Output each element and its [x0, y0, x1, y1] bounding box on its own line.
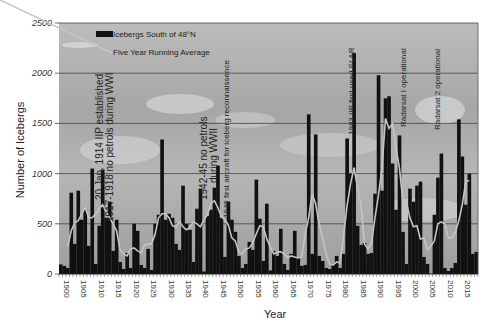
- bar: [199, 189, 203, 274]
- x-tick-label: 2015: [463, 280, 472, 298]
- x-axis-title: Year: [264, 308, 287, 320]
- x-tick-label: 1900: [62, 280, 71, 298]
- annotation-text: Radarsat 2 operational: [433, 49, 442, 130]
- bar: [234, 232, 238, 274]
- bar: [422, 257, 426, 274]
- bar: [366, 254, 370, 274]
- bar: [433, 215, 437, 274]
- bar: [363, 243, 367, 274]
- bar: [87, 246, 91, 274]
- bar: [80, 220, 84, 274]
- bar: [206, 216, 210, 274]
- bar: [359, 245, 363, 274]
- x-tick-label: 1985: [359, 280, 368, 298]
- bar: [394, 210, 398, 274]
- x-tick-label: 1970: [306, 280, 315, 298]
- bar: [380, 191, 384, 274]
- bar: [412, 202, 416, 274]
- x-tick-label: 1915: [114, 280, 123, 298]
- bar: [391, 164, 395, 274]
- bar: [440, 154, 444, 274]
- bar: [377, 75, 381, 274]
- x-tick-label: 1925: [149, 280, 158, 298]
- x-tick-label: 1905: [79, 280, 88, 298]
- x-tick-label: 1950: [236, 280, 245, 298]
- x-tick-label: 1945: [219, 280, 228, 298]
- bar: [454, 263, 458, 274]
- x-tick-label: 1980: [341, 280, 350, 298]
- x-tick-label: 1995: [394, 280, 403, 298]
- bar: [307, 114, 311, 274]
- x-tick-label: 1955: [254, 280, 263, 298]
- y-tick-label: 0: [47, 269, 52, 279]
- bar: [181, 186, 185, 274]
- bar: [405, 264, 409, 274]
- bar: [464, 205, 468, 274]
- bar: [356, 226, 360, 274]
- bar: [310, 254, 314, 274]
- bar: [303, 265, 307, 274]
- bar: [209, 210, 213, 274]
- y-tick-label: 1000: [32, 169, 52, 179]
- bar: [317, 256, 321, 274]
- x-tick-label: 2000: [411, 280, 420, 298]
- annotation-text: 1983 IIP first used SLAR: [347, 47, 356, 135]
- x-tick-label: 1930: [167, 280, 176, 298]
- y-tick-label: 2000: [31, 68, 52, 78]
- bar: [150, 270, 154, 274]
- bar: [457, 119, 461, 274]
- x-axis-ticks: 1900190519101915192019251930193519401945…: [62, 280, 473, 298]
- iceberg-chart: 20 Jan. 1914 IIP established1917-1918 no…: [0, 0, 494, 336]
- x-tick-label: 1965: [289, 280, 298, 298]
- bar: [296, 258, 300, 274]
- bar: [66, 268, 70, 274]
- bar: [220, 218, 224, 274]
- bar: [111, 251, 115, 274]
- bar: [262, 261, 266, 274]
- bar: [338, 268, 342, 274]
- bar: [97, 226, 101, 274]
- bar: [244, 264, 248, 274]
- bar: [335, 256, 339, 274]
- bar: [255, 180, 259, 274]
- bar: [443, 268, 447, 274]
- bar: [146, 249, 150, 274]
- bar: [282, 264, 286, 274]
- bar: [324, 268, 328, 274]
- bar: [450, 268, 454, 274]
- x-tick-label: 1920: [132, 280, 141, 298]
- x-tick-label: 1990: [376, 280, 385, 298]
- x-tick-label: 1960: [271, 280, 280, 298]
- bar: [104, 218, 108, 274]
- bar: [419, 182, 423, 274]
- bar: [118, 262, 122, 274]
- bar: [370, 253, 374, 274]
- bar: [185, 224, 189, 274]
- bar: [286, 270, 290, 274]
- bar: [160, 139, 164, 274]
- x-tick-label: 1975: [324, 280, 333, 298]
- bar: [62, 266, 66, 274]
- bar: [192, 262, 196, 274]
- bar: [164, 220, 168, 274]
- bar: [195, 209, 199, 274]
- bar: [178, 250, 182, 274]
- bar: [73, 244, 77, 274]
- x-tick-label: 2010: [446, 280, 455, 298]
- bar: [293, 231, 297, 274]
- legend-line-label: Five Year Running Average: [113, 48, 210, 57]
- bar: [342, 254, 346, 274]
- bar: [122, 269, 126, 274]
- bar: [223, 257, 227, 274]
- x-tick-label: 1940: [201, 280, 210, 298]
- bar: [251, 250, 255, 274]
- y-tick-label: 500: [37, 219, 52, 229]
- bar: [468, 174, 472, 274]
- bar: [398, 135, 402, 274]
- bar: [237, 256, 241, 274]
- bar: [269, 270, 273, 274]
- bar: [401, 232, 405, 274]
- y-axis-ticks: 05001000150020002500: [31, 18, 59, 279]
- x-tick-label: 1935: [184, 280, 193, 298]
- x-tick-label: 1910: [97, 280, 106, 298]
